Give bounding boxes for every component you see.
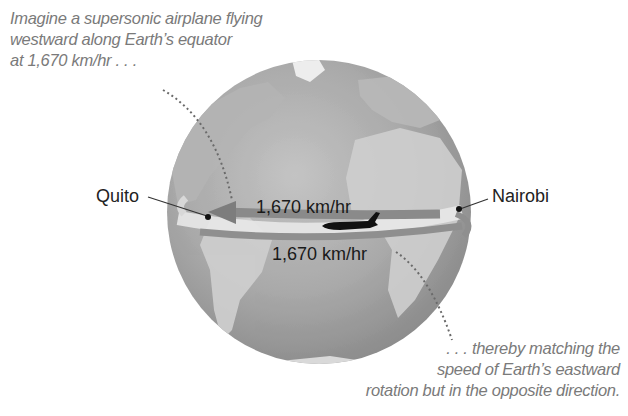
caption-bottom-line: . . . thereby matching the [300,338,620,359]
location-label-quito: Quito [96,186,139,207]
caption-top-line: at 1,670 km/hr . . . [10,50,330,71]
caption-top-line: Imagine a supersonic airplane flying [10,8,330,29]
rotation-speed-label: 1,670 km/hr [272,244,367,265]
caption-top-line: westward along Earth’s equator [10,29,330,50]
caption-bottom-line: rotation but in the opposite direction. [300,380,620,401]
location-label-nairobi: Nairobi [492,186,549,207]
caption-bottom: . . . thereby matching the speed of Eart… [300,338,620,401]
caption-top: Imagine a supersonic airplane flying wes… [10,8,330,71]
airplane-speed-label: 1,670 km/hr [256,197,351,218]
caption-bottom-line: speed of Earth’s eastward [300,359,620,380]
